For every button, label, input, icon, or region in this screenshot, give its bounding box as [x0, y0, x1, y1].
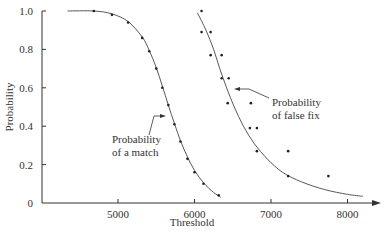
- y-tick-label: 0.6: [19, 82, 33, 94]
- data-point: [161, 87, 164, 90]
- y-tick-label: 0: [28, 197, 34, 209]
- axes: [42, 11, 381, 206]
- data-point: [200, 10, 203, 13]
- y-tick-label: 0.4: [19, 120, 33, 132]
- data-point: [155, 67, 158, 70]
- x-tick-label: 8000: [337, 208, 360, 220]
- data-point: [111, 14, 114, 17]
- data-point: [179, 140, 182, 143]
- data-point: [217, 194, 220, 197]
- annotation-match: Probability of a match: [112, 114, 166, 158]
- data-point: [200, 31, 203, 34]
- data-point: [167, 104, 170, 107]
- data-point: [93, 10, 96, 13]
- arrow-left-icon: [234, 87, 240, 91]
- data-point: [287, 150, 290, 153]
- annotation-false-line2: of false fix: [272, 109, 320, 121]
- data-point: [209, 31, 212, 34]
- data-point: [209, 54, 212, 57]
- data-point: [141, 37, 144, 40]
- chart: 00.20.40.60.81.0 5000600070008000 Thresh…: [0, 0, 385, 236]
- annotation-match-line2: of a match: [112, 146, 159, 158]
- data-point: [227, 77, 230, 80]
- data-point: [250, 102, 253, 105]
- x-tick-label: 5000: [107, 208, 130, 220]
- data-point: [127, 21, 130, 24]
- match-curve: [68, 11, 221, 197]
- y-tick-label: 0.2: [19, 159, 33, 171]
- y-tick-label: 0.8: [19, 43, 33, 55]
- data-point: [220, 54, 223, 57]
- x-ticks: 5000600070008000: [107, 199, 359, 220]
- data-point: [256, 127, 259, 130]
- x-axis-label: Threshold: [170, 216, 215, 228]
- arrow-right-icon: [160, 114, 166, 118]
- data-point: [256, 150, 259, 153]
- data-point: [148, 50, 151, 53]
- annotation-false-leader: [238, 89, 269, 98]
- x-axis-arrow-icon: [372, 200, 381, 206]
- annotation-false-fix: Probability of false fix: [234, 87, 321, 121]
- annotation-false-line1: Probability: [272, 96, 321, 108]
- data-point: [220, 77, 223, 80]
- data-point: [193, 171, 196, 174]
- y-axis-label: Probability: [3, 82, 15, 131]
- data-point: [327, 175, 330, 178]
- x-tick-label: 7000: [260, 208, 283, 220]
- data-point: [186, 158, 189, 161]
- data-point: [287, 175, 290, 178]
- y-tick-label: 1.0: [19, 5, 33, 17]
- annotation-match-line1: Probability: [112, 133, 161, 145]
- data-point: [226, 102, 229, 105]
- data-point: [202, 183, 205, 186]
- data-point: [249, 127, 252, 130]
- data-point: [173, 123, 176, 126]
